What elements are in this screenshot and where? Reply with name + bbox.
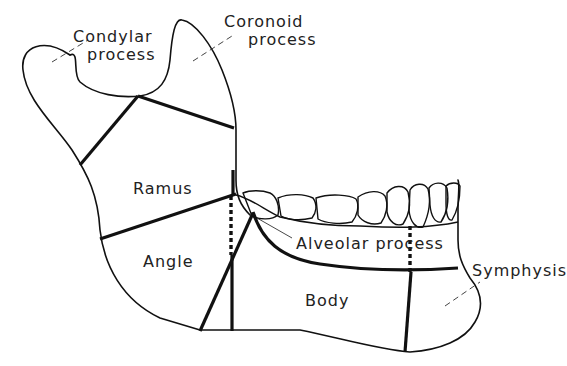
condylar-label-line1: Condylar	[73, 28, 155, 46]
body-label: Body	[305, 292, 349, 310]
condyle-ramus-divider-left	[80, 96, 138, 165]
body-symphysis-divider	[405, 272, 411, 352]
coronoid-process-label: Coronoid process	[224, 13, 316, 49]
coronoid-label-line2: process	[224, 31, 316, 49]
alveolar-leader-line	[257, 218, 292, 238]
coronoid-ramus-divider	[138, 96, 234, 128]
mandible-outline	[23, 46, 481, 352]
ramus-label: Ramus	[133, 180, 193, 198]
symphysis-label: Symphysis	[472, 262, 567, 280]
condylar-label-line2: process	[73, 46, 155, 64]
condylar-process-label: Condylar process	[73, 28, 155, 64]
alveolar-process-label: Alveolar process	[296, 235, 444, 253]
teeth-row	[236, 183, 460, 227]
angle-body-oblique	[200, 213, 253, 331]
angle-label: Angle	[143, 253, 194, 271]
ramus-angle-divider	[100, 194, 236, 239]
coronoid-label-line1: Coronoid	[224, 13, 316, 31]
